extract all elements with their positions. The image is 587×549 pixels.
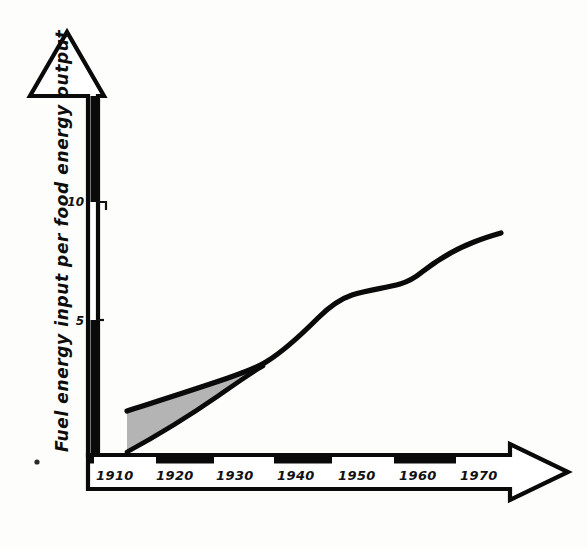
- x-tick-label-1920: 1920: [156, 468, 194, 483]
- x-tick-label-1940: 1940: [277, 468, 315, 483]
- x-tick-label-1960: 1960: [399, 468, 437, 483]
- y-axis-label: Fuel energy input per food energy output: [52, 30, 72, 452]
- x-tick-label-1970: 1970: [460, 468, 498, 483]
- y-tick-label-5: 5: [76, 314, 84, 328]
- x-tick-label-1930: 1930: [216, 468, 254, 483]
- chart-figure: 10 5 Fuel energy input per food energy o…: [0, 0, 587, 549]
- x-tick-label-1950: 1950: [338, 468, 376, 483]
- x-tick-label-1910: 1910: [96, 468, 134, 483]
- hand-drawn-line-chart: 10 5 Fuel energy input per food energy o…: [0, 0, 587, 549]
- main-trend-curve: [127, 233, 501, 411]
- scan-speck: [34, 459, 39, 464]
